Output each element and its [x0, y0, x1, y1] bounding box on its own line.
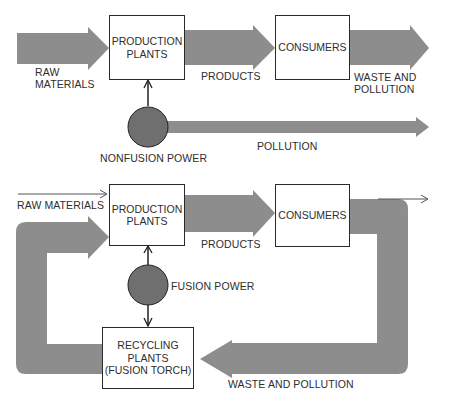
pollution-flow-arrow: [166, 117, 429, 137]
fusion-power-label: FUSION POWER: [171, 280, 254, 292]
recycling-label: RECYCLING: [105, 339, 192, 352]
waste-pollution-label-bottom: WASTE AND POLLUTION: [228, 378, 354, 390]
production-plants-label-2: PLANTS: [112, 215, 183, 228]
consumers-label: CONSUMERS: [278, 209, 346, 222]
consumers-box-bottom: CONSUMERS: [275, 184, 350, 247]
nonfusion-power-circle: [128, 107, 168, 147]
fusion-power-circle: [128, 265, 168, 305]
production-plants-box-bottom: PRODUCTIONPLANTS: [109, 184, 185, 246]
products-flow-arrow: [185, 25, 275, 70]
pollution-label: POLLUTION: [257, 140, 317, 152]
waste-pollution-label: WASTE ANDPOLLUTION: [354, 71, 416, 95]
consumers-label: CONSUMERS: [278, 41, 346, 54]
production-plants-label: PRODUCTION: [112, 35, 183, 48]
production-plants-box: PRODUCTIONPLANTS: [109, 15, 185, 80]
nonfusion-power-label: NONFUSION POWER: [100, 152, 207, 164]
raw-materials-label: RAWMATERIALS: [35, 66, 95, 90]
consumers-box: CONSUMERS: [275, 15, 350, 80]
recycling-label-2: PLANTS: [105, 352, 192, 365]
products-label: PRODUCTS: [201, 70, 261, 82]
recycling-label-3: (FUSION TORCH): [105, 364, 192, 377]
raw-materials-flow-arrow: [17, 27, 109, 70]
waste-flow-arrow: [350, 25, 429, 70]
production-plants-label-2: PLANTS: [112, 48, 183, 61]
products-label-bottom: PRODUCTS: [201, 238, 261, 250]
raw-materials-label-bottom: RAW MATERIALS: [17, 199, 104, 211]
recycle-return-flow-arrow: [16, 216, 109, 374]
products-flow-arrow-bottom: [185, 190, 275, 237]
recycling-plants-box: RECYCLINGPLANTS(FUSION TORCH): [102, 327, 194, 389]
production-plants-label: PRODUCTION: [112, 203, 183, 216]
